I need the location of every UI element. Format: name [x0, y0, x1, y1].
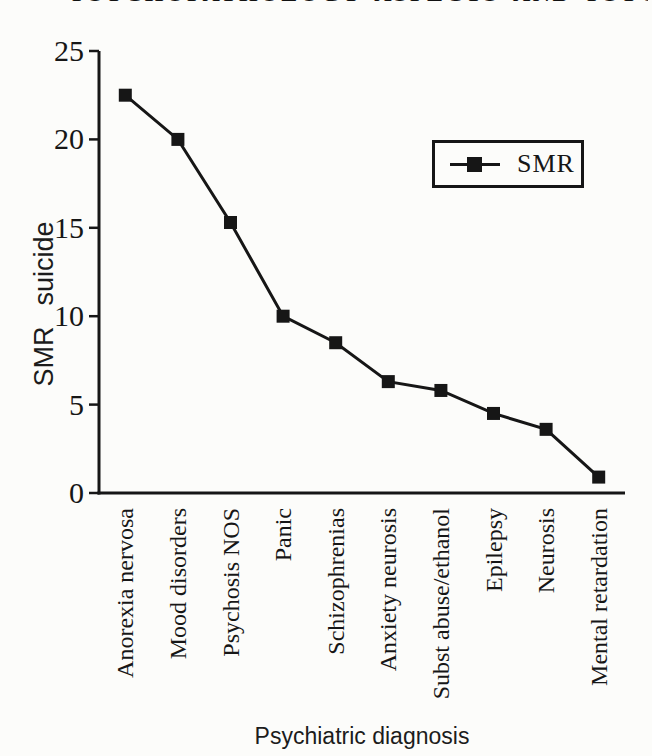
x-category-label-6: Subst abuse/ethanol [426, 508, 456, 699]
x-category-label-7: Epilepsy [479, 508, 509, 592]
legend-smr-marker-icon [450, 157, 500, 172]
x-category-label-8: Neurosis [531, 508, 561, 593]
x-category-label-3: Panic [268, 508, 298, 561]
legend-smr-label: SMR [517, 149, 575, 179]
figure-page: PSYCHOPATHOLOGY ASPECTS AND PSYCHIATRY 0… [0, 0, 652, 756]
y-tick-label: 20 [54, 122, 84, 155]
data-point-marker-8 [540, 423, 553, 436]
data-point-marker-0 [119, 89, 132, 102]
legend-box: SMR [432, 140, 584, 188]
legend-square-marker-icon [467, 157, 482, 172]
y-tick-label: 0 [69, 476, 84, 509]
x-category-label-9: Mental retardation [584, 508, 614, 686]
x-category-label-1: Mood disorders [163, 508, 193, 659]
data-point-marker-2 [224, 216, 237, 229]
x-category-label-2: Psychosis NOS [216, 508, 246, 657]
x-axis-title: Psychiatric diagnosis [255, 723, 470, 750]
data-point-marker-4 [329, 336, 342, 349]
data-point-marker-5 [382, 375, 395, 388]
x-category-label-5: Anxiety neurosis [373, 508, 403, 671]
y-axis-title: SMR suicide [29, 221, 60, 386]
y-tick-label: 25 [54, 34, 84, 67]
data-point-marker-9 [592, 471, 605, 484]
x-category-label-0: Anorexia nervosa [110, 508, 140, 678]
x-category-label-4: Schizophrenias [321, 508, 351, 655]
data-point-marker-7 [487, 407, 500, 420]
data-point-marker-6 [434, 384, 447, 397]
y-tick-label: 5 [69, 388, 84, 421]
data-point-marker-1 [171, 133, 184, 146]
data-point-marker-3 [277, 310, 290, 323]
